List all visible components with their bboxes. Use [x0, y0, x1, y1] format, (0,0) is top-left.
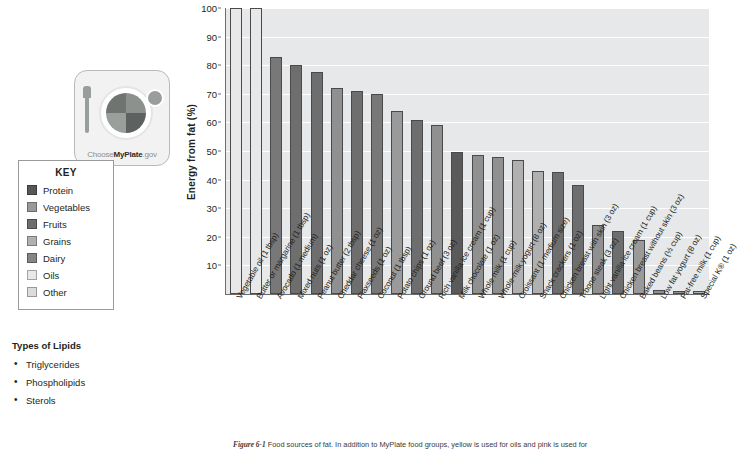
legend-label: Fruits — [43, 219, 67, 230]
y-tick-mark — [218, 93, 221, 94]
y-tick-mark — [218, 179, 221, 180]
dairy-cup-icon — [146, 89, 164, 107]
y-tick-mark — [218, 151, 221, 152]
plate-quadrant-protein — [126, 113, 146, 133]
figure-caption-text: Food sources of fat. In addition to MyPl… — [268, 440, 588, 449]
legend-label: Vegetables — [43, 202, 90, 213]
y-tick-label: 90 — [206, 31, 217, 42]
myplate-wordmark: ChooseMyPlate.gov — [75, 150, 169, 159]
legend-item-grains: Grains — [27, 233, 105, 249]
y-tick-label: 70 — [206, 88, 217, 99]
y-tick-mark — [218, 36, 221, 37]
legend-items: ProteinVegetablesFruitsGrainsDairyOilsOt… — [27, 182, 105, 300]
legend-item-protein: Protein — [27, 182, 105, 198]
legend-label: Protein — [43, 185, 73, 196]
y-tick-label: 80 — [206, 60, 217, 71]
plate-quadrants — [106, 93, 146, 133]
legend-swatch-grains — [27, 236, 37, 246]
y-tick-mark — [218, 265, 221, 266]
legend-swatch-dairy — [27, 253, 37, 263]
y-tick-mark — [218, 208, 221, 209]
bar-cell — [226, 8, 246, 294]
figure-number: Figure 6-1 — [233, 440, 266, 449]
y-tick-mark — [218, 236, 221, 237]
bar — [230, 8, 242, 294]
types-of-lipids-title: Types of Lipids — [12, 340, 172, 351]
legend-swatch-oils — [27, 270, 37, 280]
chart-legend: KEY ProteinVegetablesFruitsGrainsDairyOi… — [18, 160, 114, 310]
legend-swatch-protein — [27, 185, 37, 195]
legend-item-oils: Oils — [27, 267, 105, 283]
y-tick-label: 50 — [206, 146, 217, 157]
y-tick-mark — [218, 65, 221, 66]
lipid-list-item: Phospholipids — [12, 377, 172, 388]
y-tick-mark — [218, 8, 221, 9]
lipid-list-item: Sterols — [12, 395, 172, 406]
figure-caption: Figure 6-1 Food sources of fat. In addit… — [233, 440, 703, 452]
y-axis-ticks: 102030405060708090100 — [199, 2, 221, 294]
plate-quadrant-fruits — [126, 93, 146, 113]
y-axis-title: Energy from fat (%) — [183, 2, 199, 302]
plate-icon — [99, 86, 153, 140]
myplate-logo: ChooseMyPlate.gov — [74, 70, 170, 166]
wordmark-myplate: MyPlate — [114, 150, 143, 159]
lipid-list-item: Triglycerides — [12, 359, 172, 370]
legend-label: Oils — [43, 270, 59, 281]
legend-title: KEY — [27, 167, 105, 178]
x-axis-labels: Vegetable oil (1 tbsp)Butter or margarin… — [225, 296, 709, 426]
y-tick-label: 100 — [201, 3, 217, 14]
y-tick-label: 30 — [206, 203, 217, 214]
legend-item-dairy: Dairy — [27, 250, 105, 266]
plate-quadrant-grains — [106, 113, 126, 133]
wordmark-choose: Choose — [87, 150, 113, 159]
types-of-lipids-block: Types of Lipids TriglyceridesPhospholipi… — [12, 340, 172, 413]
wordmark-gov: .gov — [142, 150, 156, 159]
plate-quadrant-vegetables — [106, 93, 126, 113]
y-tick-label: 20 — [206, 231, 217, 242]
fork-icon — [85, 93, 89, 133]
legend-swatch-fruits — [27, 219, 37, 229]
legend-swatch-other — [27, 287, 37, 297]
legend-item-other: Other — [27, 284, 105, 300]
legend-label: Dairy — [43, 253, 65, 264]
legend-swatch-vegetables — [27, 202, 37, 212]
y-tick-mark — [218, 122, 221, 123]
legend-item-fruits: Fruits — [27, 216, 105, 232]
y-axis-title-text: Energy from fat (%) — [186, 104, 197, 200]
y-tick-label: 40 — [206, 174, 217, 185]
y-tick-label: 60 — [206, 117, 217, 128]
types-of-lipids-list: TriglyceridesPhospholipidsSterols — [12, 359, 172, 406]
legend-label: Other — [43, 287, 67, 298]
legend-label: Grains — [43, 236, 71, 247]
legend-item-vegetables: Vegetables — [27, 199, 105, 215]
y-tick-label: 10 — [206, 260, 217, 271]
